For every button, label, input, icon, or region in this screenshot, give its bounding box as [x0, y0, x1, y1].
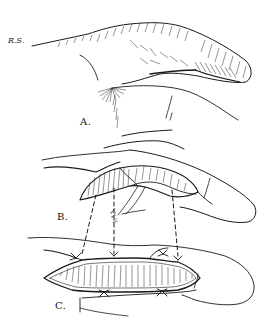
panel-label-c: C.	[55, 300, 66, 311]
panel-label-b: B.	[57, 211, 69, 222]
panel-a-drawing	[32, 23, 251, 149]
artist-signature: R.S.	[8, 36, 24, 45]
illustration-canvas	[0, 0, 271, 325]
panel-b-drawing	[42, 150, 256, 223]
surgical-illustration: R.S. A. B. C.	[0, 0, 271, 325]
panel-label-a: A.	[80, 116, 91, 127]
